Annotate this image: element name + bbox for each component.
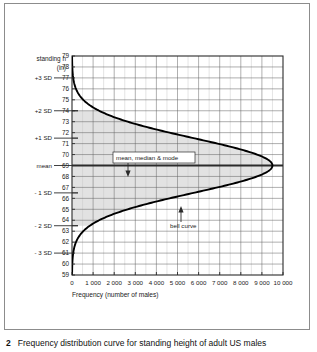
y-axis-title-line2: (in) [57,64,66,72]
x-tick-label: 5 000 [170,279,186,286]
y-tick-label: 71 [62,140,70,147]
y-axis-title-line1: standing h [37,55,67,63]
y-tick-label: 73 [62,118,70,125]
y-tick-label: 66 [62,195,70,202]
y-tick-label: 65 [62,206,70,213]
y-tick-label: 75 [62,96,70,103]
x-axis-title: Frequency (number of males) [72,291,159,299]
y-tick-label: 67 [62,184,70,191]
x-tick-label: 10 000 [274,279,293,286]
y-tick-label: 68 [62,173,70,180]
figure-caption: 2Frequency distribution curve for standi… [0,338,317,352]
x-axis-tick-labels: 01 0002 0003 0004 0005 0006 0007 0008 00… [70,279,293,286]
y-tick-label: 70 [62,151,70,158]
shaded-sd-band [72,111,272,226]
chart-svg: 7978777675747372717069686766656463626160… [0,0,317,352]
x-tick-label: 6 000 [191,279,207,286]
sd-marker-label: - 2 SD [34,222,52,229]
x-tick-label: 3 000 [128,279,144,286]
mean-annotation-label: mean, median & mode [116,154,179,161]
y-tick-label: 62 [62,238,70,245]
sd-marker-label: +3 SD [35,74,53,81]
y-tick-label: 59 [62,271,70,278]
y-tick-label: 76 [62,85,70,92]
frequency-distribution-chart: 7978777675747372717069686766656463626160… [0,0,317,352]
x-tick-label: 0 [70,279,74,286]
x-tick-label: 8 000 [233,279,249,286]
y-tick-label: 63 [62,227,70,234]
x-tick-label: 9 000 [254,279,270,286]
x-tick-label: 2 000 [106,279,122,286]
x-tick-label: 7 000 [212,279,228,286]
sd-marker-label: +1 SD [35,134,53,141]
bell-curve-label: bell curve [170,222,197,229]
y-tick-label: 72 [62,129,70,136]
y-tick-label: 60 [62,260,70,267]
y-axis-tick-marks [72,56,75,275]
sd-marker-label: +2 SD [35,107,53,114]
sd-marker-label: - 3 SD [34,249,52,256]
x-tick-label: 4 000 [149,279,165,286]
sd-marker-label: - 1 SD [34,189,52,196]
y-tick-label: 64 [62,216,70,223]
sd-marker-label: mean [37,162,53,169]
caption-number: 2 [6,338,11,348]
x-tick-label: 1 000 [85,279,101,286]
caption-body: Frequency distribution curve for standin… [18,338,267,348]
